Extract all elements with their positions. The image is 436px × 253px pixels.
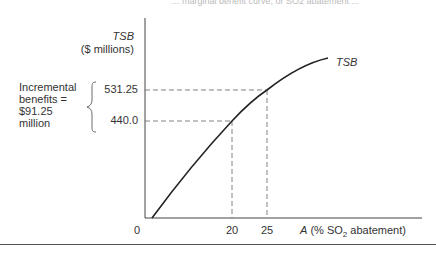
x-axis-label-post: abatement) <box>347 224 406 236</box>
tsb-curve <box>152 58 328 218</box>
x-axis-label: A (% SO2 abatement) <box>300 224 406 239</box>
y-tick-531: 531.25 <box>88 83 138 95</box>
annotation-line: million <box>19 117 76 129</box>
incremental-benefits-annotation: Incremental benefits = $91.25 million <box>19 81 76 129</box>
annotation-line: benefits = <box>19 93 76 105</box>
annotation-line: $91.25 <box>19 105 76 117</box>
x-tick-0: 0 <box>134 224 140 236</box>
y-axis-label-var: TSB <box>81 30 134 43</box>
y-tick-440: 440.0 <box>88 114 138 126</box>
bottom-rule <box>0 244 436 245</box>
tsb-curve-label: TSB <box>336 56 357 68</box>
annotation-line: Incremental <box>19 81 76 93</box>
x-tick-20: 20 <box>226 224 238 236</box>
y-axis-label: TSB ($ millions) <box>81 30 134 56</box>
x-tick-25: 25 <box>261 224 273 236</box>
x-axis-label-pre: (% SO <box>307 224 342 236</box>
y-axis-label-unit: ($ millions) <box>81 43 134 56</box>
